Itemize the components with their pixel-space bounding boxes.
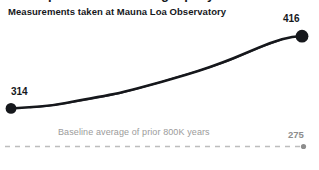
co2-chart: Atmospheric CO2 is rising rapidly Measur… <box>0 0 319 170</box>
start-value-label: 314 <box>11 86 28 97</box>
baseline-end-dot <box>301 144 306 149</box>
end-value-label: 416 <box>283 13 300 24</box>
baseline-caption-label: Baseline average of prior 800K years <box>58 126 210 138</box>
start-point-marker <box>6 103 17 114</box>
baseline-value-label: 275 <box>288 129 304 140</box>
end-point-marker <box>296 30 309 43</box>
chart-plot-area <box>0 0 319 170</box>
co2-trend-line-texture <box>30 40 282 108</box>
co2-trend-line <box>11 36 302 108</box>
